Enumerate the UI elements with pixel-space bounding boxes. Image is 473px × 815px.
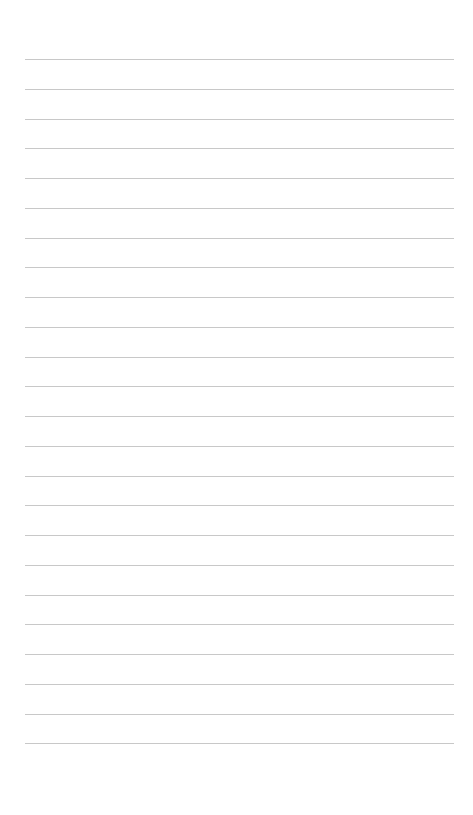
ruled-line <box>25 327 454 328</box>
ruled-line <box>25 476 454 477</box>
ruled-line <box>25 535 454 536</box>
ruled-line <box>25 267 454 268</box>
ruled-line <box>25 59 454 60</box>
ruled-line <box>25 416 454 417</box>
ruled-line <box>25 178 454 179</box>
ruled-line <box>25 624 454 625</box>
ruled-line <box>25 208 454 209</box>
ruled-line <box>25 505 454 506</box>
ruled-line <box>25 119 454 120</box>
ruled-line <box>25 714 454 715</box>
ruled-line <box>25 386 454 387</box>
ruled-line <box>25 684 454 685</box>
ruled-line <box>25 654 454 655</box>
ruled-line <box>25 297 454 298</box>
ruled-line <box>25 238 454 239</box>
ruled-line <box>25 357 454 358</box>
ruled-line <box>25 743 454 744</box>
ruled-line <box>25 89 454 90</box>
ruled-line <box>25 565 454 566</box>
ruled-line <box>25 446 454 447</box>
ruled-line <box>25 595 454 596</box>
ruled-line <box>25 148 454 149</box>
lined-paper-page <box>0 0 473 815</box>
